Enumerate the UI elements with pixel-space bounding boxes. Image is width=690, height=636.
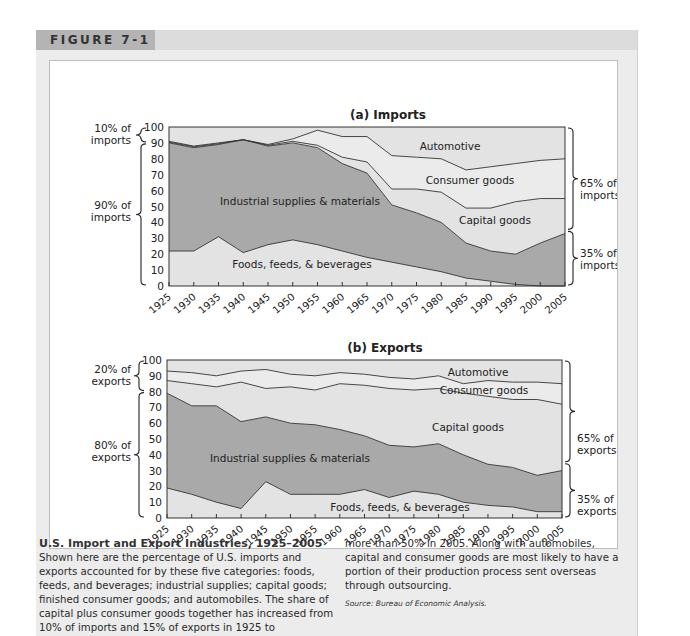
svg-text:65% of: 65% of [577,432,614,444]
chart-panel: 0102030405060708090100192519301935194019… [49,60,618,549]
svg-text:Capital goods: Capital goods [432,421,504,433]
svg-text:1940: 1940 [221,291,248,316]
svg-text:1995: 1995 [493,291,520,316]
svg-text:Industrial supplies & material: Industrial supplies & materials [210,452,370,464]
svg-text:50: 50 [149,433,162,445]
svg-text:60: 60 [151,185,164,197]
svg-text:1960: 1960 [320,291,347,316]
svg-text:30: 30 [149,465,162,477]
svg-text:0: 0 [157,280,164,292]
svg-text:imports: imports [91,134,131,146]
svg-text:1930: 1930 [171,291,198,316]
svg-text:Consumer goods: Consumer goods [440,384,529,396]
svg-text:90% of: 90% of [94,199,131,211]
svg-text:30: 30 [151,232,164,244]
svg-text:20: 20 [151,248,164,260]
svg-text:0: 0 [155,512,162,524]
svg-text:Automotive: Automotive [420,140,481,152]
svg-text:1935: 1935 [196,291,223,316]
caption-title: U.S. Import and Export Industries, 1925–… [39,537,322,550]
svg-text:Capital goods: Capital goods [459,214,531,226]
svg-text:2000: 2000 [518,291,545,316]
svg-text:exports: exports [577,505,616,517]
svg-text:exports: exports [92,451,131,463]
svg-text:Industrial supplies & material: Industrial supplies & materials [220,195,380,207]
svg-text:100: 100 [144,121,164,133]
svg-text:20: 20 [149,480,162,492]
caption-right-column: more than 50% in 2005. Along with automo… [345,537,625,611]
svg-text:90: 90 [151,137,164,149]
caption-body-right: more than 50% in 2005. Along with automo… [345,537,625,593]
svg-text:70: 70 [151,169,164,181]
svg-text:1970: 1970 [369,291,396,316]
caption-body-left: Shown here are the percentage of U.S. im… [39,552,333,633]
svg-text:Foods, feeds, & beverages: Foods, feeds, & beverages [330,501,469,513]
charts-svg: 0102030405060708090100192519301935194019… [50,61,617,548]
svg-text:70: 70 [149,401,162,413]
svg-text:imports: imports [91,211,131,223]
svg-text:65% of: 65% of [580,177,617,189]
svg-text:80: 80 [151,153,164,165]
svg-text:2005: 2005 [543,291,570,316]
caption-source: Source: Bureau of Economic Analysis. [345,597,625,611]
svg-text:1945: 1945 [246,291,273,316]
svg-text:1980: 1980 [419,291,446,316]
exports-chart: 0102030405060708090100192519301935194019… [92,341,617,548]
svg-text:60: 60 [149,417,162,429]
svg-text:1985: 1985 [444,291,471,316]
svg-text:exports: exports [577,444,616,456]
svg-text:10: 10 [151,264,164,276]
svg-text:imports: imports [580,259,617,271]
svg-text:1925: 1925 [147,291,174,316]
svg-text:50: 50 [151,201,164,213]
svg-text:Consumer goods: Consumer goods [426,174,515,186]
svg-text:(b) Exports: (b) Exports [347,341,422,355]
svg-text:90: 90 [149,370,162,382]
svg-text:1990: 1990 [468,291,495,316]
caption-left-column: U.S. Import and Export Industries, 1925–… [39,537,339,635]
svg-text:35% of: 35% of [577,493,614,505]
svg-text:10% of: 10% of [94,122,131,134]
imports-chart: 0102030405060708090100192519301935194019… [91,108,617,316]
svg-text:(a) Imports: (a) Imports [350,108,426,122]
svg-text:40: 40 [149,449,162,461]
svg-text:1950: 1950 [270,291,297,316]
svg-text:20% of: 20% of [94,363,131,375]
svg-text:35% of: 35% of [580,247,617,259]
figure-container: FIGURE 7-1 01020304050607080901001925193… [36,30,638,636]
svg-text:Automotive: Automotive [448,366,509,378]
svg-text:80: 80 [149,386,162,398]
svg-text:100: 100 [142,354,162,366]
svg-text:1965: 1965 [345,291,372,316]
figure-tag: FIGURE 7-1 [36,30,155,50]
svg-text:40: 40 [151,216,164,228]
figure-header-bar: FIGURE 7-1 [36,30,637,50]
svg-text:Foods, feeds, & beverages: Foods, feeds, & beverages [232,258,371,270]
svg-text:80% of: 80% of [94,439,131,451]
svg-text:imports: imports [580,189,617,201]
svg-text:1975: 1975 [394,291,421,316]
svg-text:10: 10 [149,496,162,508]
svg-text:exports: exports [92,375,131,387]
svg-text:1955: 1955 [295,291,322,316]
